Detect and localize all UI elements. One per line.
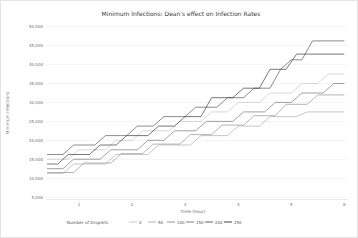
line-chart: Minimum Infections: Dean's effect on Inf… — [1, 1, 358, 238]
y-tick-label: 10,000 — [29, 176, 43, 181]
data-series — [47, 41, 344, 174]
y-tick-label: 50,000 — [29, 24, 43, 29]
x-tick-label: 6 — [343, 202, 346, 207]
y-tick-label: 45,000 — [29, 43, 43, 48]
x-tick-label: 5 — [290, 202, 293, 207]
x-tick-label: 4 — [237, 202, 240, 207]
legend-label-150: 150 — [196, 220, 204, 225]
chart-figure: Minimum Infections: Dean's effect on Inf… — [0, 0, 358, 238]
y-tick-label: 20,000 — [29, 138, 43, 143]
legend-title: Number of Droplets — [67, 220, 108, 225]
chart-title: Minimum Infections: Dean's effect on Inf… — [102, 10, 261, 17]
legend-label-50: 50 — [158, 220, 164, 225]
x-axis-label: Time (hour) — [179, 209, 205, 214]
y-tick-label: 35,000 — [29, 81, 43, 86]
y-tick-label: 25,000 — [29, 119, 43, 124]
y-tick-label: 40,000 — [29, 62, 43, 67]
series-line-100 — [47, 95, 344, 173]
legend-label-200: 200 — [215, 220, 223, 225]
legend-label-250: 250 — [234, 220, 242, 225]
legend: Number of Droplets 050100150200250 — [67, 220, 242, 225]
series-line-150 — [47, 84, 344, 169]
legend-label-100: 100 — [177, 220, 185, 225]
y-tick-label: 5,000 — [32, 195, 44, 200]
y-axis-label: Minimum Infections — [5, 91, 10, 134]
x-tick-label: 2 — [131, 202, 134, 207]
legend-label-0: 0 — [139, 220, 142, 225]
x-tick-label: 3 — [184, 202, 187, 207]
y-tick-label: 30,000 — [29, 100, 43, 105]
series-line-200 — [47, 41, 344, 155]
gridlines — [46, 27, 347, 197]
y-tick-label: 15,000 — [29, 157, 43, 162]
series-line-250 — [47, 54, 344, 164]
x-tick-label: 1 — [78, 202, 81, 207]
